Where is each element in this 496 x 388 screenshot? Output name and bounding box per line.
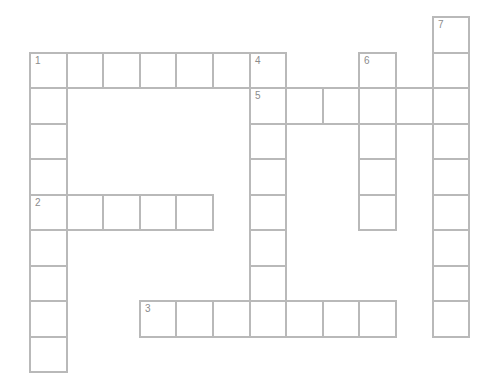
crossword-cell[interactable] (29, 158, 68, 196)
crossword-cell[interactable] (102, 52, 141, 89)
crossword-cell[interactable] (175, 194, 214, 231)
crossword-cell[interactable] (249, 194, 287, 231)
crossword-cell[interactable] (249, 123, 287, 160)
crossword-cell[interactable] (322, 87, 360, 125)
crossword-cell[interactable] (102, 194, 141, 231)
crossword-cell[interactable] (249, 300, 287, 338)
crossword-cell[interactable] (432, 123, 470, 160)
crossword-cell[interactable] (432, 194, 470, 231)
crossword-cell[interactable] (432, 300, 470, 338)
crossword-cell[interactable] (395, 87, 434, 125)
clue-number: 2 (35, 198, 41, 208)
crossword-cell[interactable] (358, 87, 397, 125)
crossword-cell[interactable] (29, 229, 68, 267)
crossword-cell[interactable] (432, 158, 470, 196)
crossword-cell[interactable]: 6 (358, 52, 397, 89)
clue-number: 6 (364, 56, 370, 66)
clue-number: 5 (255, 91, 261, 101)
crossword-cell[interactable] (358, 123, 397, 160)
crossword-cell[interactable] (432, 265, 470, 302)
crossword-cell[interactable] (358, 158, 397, 196)
crossword-cell[interactable] (432, 87, 470, 125)
clue-number: 3 (145, 304, 151, 314)
crossword-cell[interactable] (29, 336, 68, 373)
clue-number: 7 (438, 20, 444, 30)
crossword-cell[interactable] (432, 52, 470, 89)
crossword-cell[interactable] (285, 300, 324, 338)
crossword-cell[interactable] (66, 52, 104, 89)
crossword-cell[interactable] (212, 300, 251, 338)
crossword-cell[interactable] (249, 229, 287, 267)
crossword-cell[interactable] (322, 300, 360, 338)
crossword-cell[interactable] (29, 123, 68, 160)
crossword-cell[interactable] (29, 265, 68, 302)
crossword-cell[interactable] (212, 52, 251, 89)
crossword-cell[interactable] (175, 300, 214, 338)
crossword-cell[interactable] (29, 87, 68, 125)
crossword-cell[interactable]: 7 (432, 16, 470, 54)
crossword-cell[interactable] (29, 300, 68, 338)
crossword-cell[interactable]: 4 (249, 52, 287, 89)
crossword-cell[interactable] (139, 52, 177, 89)
crossword-cell[interactable]: 5 (249, 87, 287, 125)
crossword-cell[interactable] (249, 265, 287, 302)
crossword-cell[interactable]: 2 (29, 194, 68, 231)
crossword-cell[interactable] (175, 52, 214, 89)
crossword-cell[interactable] (358, 300, 397, 338)
crossword-cell[interactable] (249, 158, 287, 196)
clue-number: 1 (35, 56, 41, 66)
crossword-cell[interactable] (139, 194, 177, 231)
crossword-cell[interactable]: 1 (29, 52, 68, 89)
crossword-cell[interactable]: 3 (139, 300, 177, 338)
crossword-cell[interactable] (358, 194, 397, 231)
crossword-grid: 1423567 (0, 0, 496, 388)
crossword-cell[interactable] (285, 87, 324, 125)
crossword-cell[interactable] (432, 229, 470, 267)
clue-number: 4 (255, 56, 261, 66)
crossword-cell[interactable] (66, 194, 104, 231)
